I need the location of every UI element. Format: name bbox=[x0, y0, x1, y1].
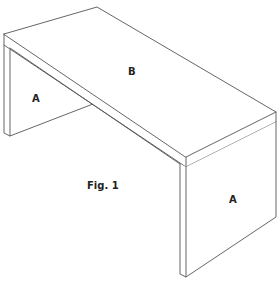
table-diagram: B A A Fig. 1 bbox=[0, 0, 280, 283]
table-drawing bbox=[0, 0, 280, 283]
figure-caption: Fig. 1 bbox=[87, 181, 119, 191]
label-left-leg-a: A bbox=[32, 94, 40, 104]
label-top-b: B bbox=[128, 67, 136, 77]
label-right-leg-a: A bbox=[229, 195, 237, 205]
